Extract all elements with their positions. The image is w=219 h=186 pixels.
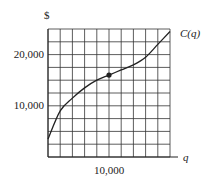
x-tick-10000: 10,000 xyxy=(94,164,125,176)
y-axis-label: $ xyxy=(44,9,50,21)
cost-function-chart: $ q C(q) 20,000 10,000 10,000 xyxy=(0,0,219,186)
grid xyxy=(48,29,170,157)
curve-label: C(q) xyxy=(180,27,201,40)
highlight-point xyxy=(106,72,111,77)
y-tick-20000: 20,000 xyxy=(14,48,45,60)
y-tick-10000: 10,000 xyxy=(14,99,45,111)
x-axis-label: q xyxy=(183,151,189,163)
